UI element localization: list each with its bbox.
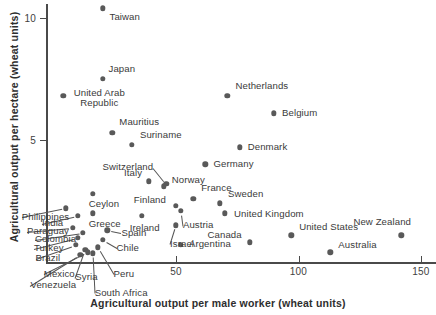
leader-line bbox=[111, 231, 121, 234]
data-point bbox=[173, 223, 178, 228]
data-point bbox=[237, 145, 242, 150]
point-label: Peru bbox=[114, 269, 135, 280]
point-label: Japan bbox=[109, 64, 136, 75]
data-point bbox=[217, 201, 222, 206]
point-label: Mauritius bbox=[119, 117, 159, 128]
data-point bbox=[203, 162, 208, 167]
leader-line bbox=[153, 168, 164, 182]
data-point bbox=[95, 245, 100, 250]
data-point bbox=[161, 184, 166, 189]
point-label: United Arab Republic bbox=[70, 88, 128, 109]
data-point bbox=[139, 213, 144, 218]
data-point bbox=[247, 240, 252, 245]
data-point bbox=[129, 142, 134, 147]
point-label: Netherlands bbox=[235, 81, 288, 92]
x-tick-100 bbox=[299, 256, 300, 262]
point-label: Brazil bbox=[36, 253, 61, 264]
point-label: Venezuela bbox=[30, 280, 76, 291]
point-label: Italy bbox=[124, 168, 142, 179]
data-point bbox=[190, 196, 195, 201]
y-tick-5 bbox=[40, 140, 47, 141]
data-point bbox=[288, 232, 293, 237]
x-tick-label-150: 150 bbox=[412, 266, 429, 277]
point-label: France bbox=[201, 183, 231, 194]
data-point bbox=[70, 225, 75, 230]
data-point bbox=[90, 210, 95, 215]
point-label: Mexico bbox=[44, 269, 75, 280]
y-tick-10 bbox=[40, 18, 47, 19]
point-label: Canada bbox=[208, 230, 242, 241]
data-point bbox=[110, 130, 115, 135]
point-label: Taiwan bbox=[110, 12, 140, 23]
x-tick-label-100: 100 bbox=[290, 266, 307, 277]
data-point bbox=[100, 237, 105, 242]
point-label: Suriname bbox=[140, 130, 182, 141]
leader-line bbox=[106, 242, 117, 249]
point-label: Chile bbox=[117, 243, 139, 254]
point-label: Germany bbox=[213, 159, 253, 170]
data-point bbox=[146, 179, 151, 184]
point-label: Finland bbox=[134, 195, 166, 206]
x-axis-title: Agricultural output per male worker (whe… bbox=[0, 297, 436, 309]
x-tick-150 bbox=[421, 256, 422, 262]
scatter-plot-canvas: 50100150510 TaiwanJapanUnited Arab Repub… bbox=[0, 0, 436, 315]
data-point bbox=[80, 230, 85, 235]
point-label: United States bbox=[299, 222, 358, 233]
data-point bbox=[61, 93, 66, 98]
x-axis-line bbox=[46, 262, 436, 264]
y-axis-title: Agricultural output per hectare (wheat u… bbox=[8, 2, 20, 252]
point-label: United Kingdom bbox=[234, 209, 304, 220]
y-axis-title-wrapper: Agricultural output per hectare (wheat u… bbox=[8, 2, 28, 252]
data-point bbox=[178, 208, 183, 213]
point-label: New Zealand bbox=[353, 217, 411, 228]
point-label: Belgium bbox=[282, 108, 317, 119]
data-point bbox=[328, 250, 333, 255]
point-label: Norway bbox=[172, 175, 205, 186]
x-tick-label-50: 50 bbox=[170, 266, 182, 277]
x-tick-50 bbox=[176, 256, 177, 262]
data-point bbox=[100, 76, 105, 81]
data-point bbox=[100, 6, 105, 11]
data-point bbox=[222, 210, 227, 215]
data-point bbox=[399, 232, 404, 237]
point-label: Greece bbox=[89, 219, 121, 230]
point-label: Australia bbox=[338, 240, 376, 251]
data-point bbox=[271, 110, 276, 115]
point-label: Syria bbox=[75, 272, 97, 283]
point-label: Sweden bbox=[228, 189, 263, 200]
data-point bbox=[90, 251, 95, 256]
point-label: Ceylon bbox=[89, 199, 119, 210]
data-point bbox=[225, 93, 230, 98]
data-point bbox=[90, 191, 95, 196]
point-label: Spain bbox=[121, 228, 146, 239]
data-point bbox=[173, 203, 178, 208]
data-point bbox=[75, 213, 80, 218]
point-label: Denmark bbox=[248, 142, 288, 153]
point-label: Argentina bbox=[189, 239, 231, 250]
